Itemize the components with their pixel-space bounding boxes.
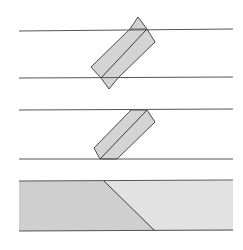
guide-line-bottom-step-1 [19, 77, 233, 78]
panel-step-1 [19, 17, 233, 89]
panel-step-3 [19, 180, 233, 231]
diagram-canvas [0, 0, 243, 250]
guide-line-top-step-1 [19, 29, 233, 31]
panel-step-2 [19, 109, 233, 159]
folded-strip-step-2 [94, 110, 155, 159]
folding-diagram [0, 0, 243, 250]
band-top-edge [19, 180, 233, 181]
folded-strip-step-1 [91, 17, 155, 89]
guide-line-top-step-2 [19, 109, 233, 110]
